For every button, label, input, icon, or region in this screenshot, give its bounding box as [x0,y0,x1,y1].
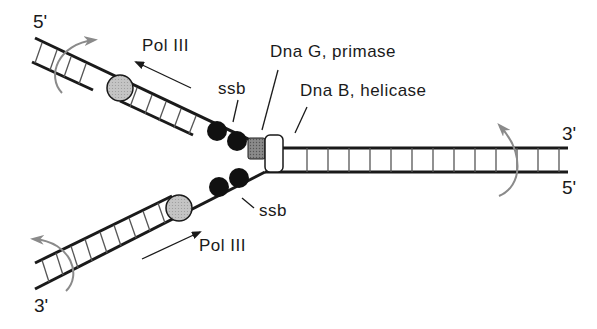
pol3-leading-icon [166,195,192,221]
ssb-top-icon [207,121,247,151]
label-pol3-top: Pol III [142,37,189,54]
label-ssb-bottom: ssb [259,202,287,219]
pol3-lagging-icon [107,75,133,101]
label-3prime-bottom-left: 3' [34,296,48,315]
label-primase: Dna G, primase [270,43,396,60]
pol3-top-direction-arrow [136,62,191,88]
rotation-arrow-right-icon [499,126,518,196]
primase-icon [248,138,265,159]
label-ssb-top: ssb [218,80,246,97]
ssb-bottom-icon [209,168,249,197]
label-pol3-bottom: Pol III [199,237,246,254]
label-helicase: Dna B, helicase [300,82,427,99]
helicase-icon [265,135,283,172]
parental-duplex [283,148,568,172]
label-5prime-right: 5' [562,178,576,197]
leading-strand [35,172,283,289]
label-3prime-right: 3' [562,124,576,143]
pol3-bottom-direction-arrow [142,232,200,259]
label-5prime-top-left: 5' [33,12,47,31]
rotation-arrow-top-left-icon [55,40,94,93]
